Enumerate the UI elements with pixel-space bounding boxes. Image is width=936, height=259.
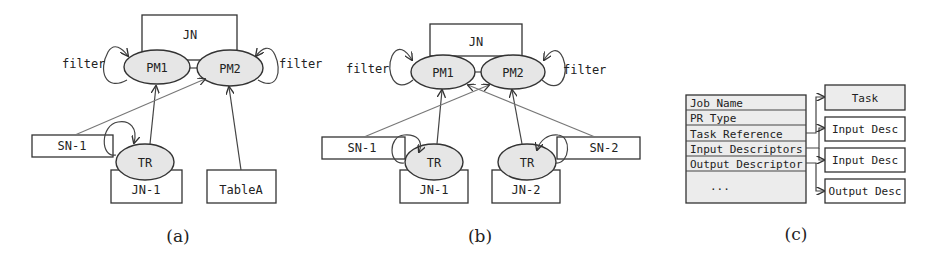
- tr1-to-pm1-edge: [437, 90, 442, 144]
- task-label: Task: [852, 92, 879, 105]
- pm2-label: PM2: [502, 66, 524, 80]
- sn1-label: SN-1: [58, 139, 87, 153]
- tr-to-pm1-edge: [150, 86, 156, 144]
- input-desc-label-2: Input Desc: [832, 154, 898, 167]
- tr-label: TR: [138, 156, 153, 170]
- tablea-label: TableA: [219, 183, 263, 197]
- panel-a: JN PM1 PM2 filter filter SN-1 JN-1 TR Ta…: [32, 15, 322, 246]
- tr2-label: TR: [520, 156, 535, 170]
- pm1-label: PM1: [432, 66, 454, 80]
- pm1-filter-loop: [390, 49, 413, 85]
- jn-label: JN: [183, 28, 197, 42]
- output-desc-label: Output Desc: [829, 185, 902, 198]
- panel-c: Job Name PR Type Task Reference Input De…: [686, 85, 905, 244]
- filter-label-right: filter: [563, 63, 606, 77]
- field-ellipsis: ...: [710, 180, 730, 193]
- caption-c: (c): [785, 224, 808, 244]
- input-desc-label-1: Input Desc: [832, 123, 898, 136]
- field-input-descriptors: Input Descriptors: [690, 143, 803, 156]
- pm2-filter-loop: [542, 51, 565, 86]
- jn1-label: JN-1: [132, 183, 161, 197]
- pm1-label: PM1: [146, 61, 168, 75]
- input-descriptors-to-input-desc-edge: [806, 128, 824, 148]
- field-job-name: Job Name: [690, 97, 743, 110]
- jn2-label: JN-2: [512, 183, 541, 197]
- field-task-reference: Task Reference: [690, 128, 783, 141]
- field-pr-type: PR Type: [690, 112, 736, 125]
- tr2-to-pm2-edge: [512, 90, 522, 144]
- caption-a: (a): [166, 226, 189, 246]
- input-descriptors-to-input-desc-2-edge: [819, 148, 824, 160]
- output-descriptor-to-output-desc-edge: [806, 163, 824, 191]
- panel-b: JN PM1 PM2 filter filter SN-1 JN-1 TR JN…: [322, 24, 640, 246]
- sn1-label: SN-1: [348, 141, 377, 155]
- tr1-label: TR: [427, 156, 442, 170]
- filter-label-right: filter: [279, 57, 322, 71]
- tablea-to-pm2-edge: [229, 87, 241, 170]
- caption-b: (b): [468, 226, 492, 246]
- jn-label: JN: [469, 35, 483, 49]
- filter-label-left: filter: [62, 57, 105, 71]
- sn2-label: SN-2: [590, 141, 619, 155]
- sn2-to-pm1-edge: [468, 85, 595, 137]
- sn1-to-pm2-edge: [75, 79, 205, 135]
- sn1-to-pm2-edge: [364, 85, 489, 137]
- pm2-label: PM2: [219, 62, 241, 76]
- jn1-label: JN-1: [420, 183, 449, 197]
- field-output-descriptor: Output Descriptor: [690, 158, 803, 171]
- filter-label-left: filter: [346, 62, 389, 76]
